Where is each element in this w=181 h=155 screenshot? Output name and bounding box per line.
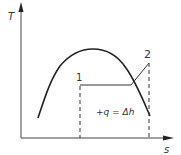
- heat-annotation: +q = Δh: [96, 107, 135, 117]
- x-axis-arrow-icon: [163, 136, 174, 141]
- point-1-label: 1: [76, 72, 82, 83]
- x-axis-label: s: [164, 144, 169, 155]
- process-path: [80, 63, 149, 138]
- y-axis: [19, 2, 24, 138]
- y-axis-label: T: [8, 11, 15, 22]
- ts-diagram: T s 1 2 +q = Δh: [0, 0, 181, 155]
- superheat-line: [131, 63, 149, 85]
- point-2-label: 2: [144, 48, 151, 61]
- x-axis: [21, 136, 174, 141]
- y-axis-arrow-icon: [19, 2, 24, 12]
